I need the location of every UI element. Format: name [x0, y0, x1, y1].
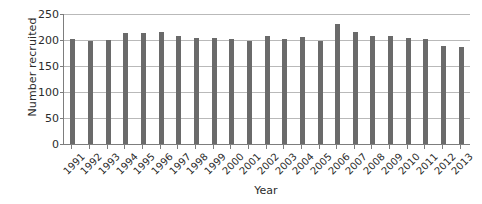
x-tick-mark-2011 — [424, 145, 425, 149]
bar — [194, 38, 199, 144]
bar-slot — [364, 14, 382, 144]
bar-slot — [205, 14, 223, 144]
x-label-slot: 2008 — [363, 150, 381, 180]
x-tick-mark-1994 — [124, 145, 125, 149]
x-label-slot: 2001 — [240, 150, 258, 180]
x-label-slot: 2004 — [293, 150, 311, 180]
x-label-slot: 2000 — [222, 150, 240, 180]
bar-slot — [347, 14, 365, 144]
bar — [247, 41, 252, 144]
bar-slot — [417, 14, 435, 144]
x-label-slot: 1996 — [151, 150, 169, 180]
plot-area — [63, 14, 470, 145]
x-label-slot: 1998 — [187, 150, 205, 180]
bar-slot — [135, 14, 153, 144]
x-tick-mark-1991 — [71, 145, 72, 149]
bar-slot — [276, 14, 294, 144]
x-label-slot: 1997 — [169, 150, 187, 180]
y-tick-label-100: 100 — [33, 87, 59, 98]
bar — [123, 33, 128, 144]
bar — [176, 36, 181, 144]
bar — [282, 39, 287, 144]
x-label-slot: 2006 — [328, 150, 346, 180]
bar-slot — [117, 14, 135, 144]
bar — [353, 32, 358, 144]
bar — [388, 36, 393, 144]
x-tick-mark-2012 — [442, 145, 443, 149]
bar-slot — [223, 14, 241, 144]
bar-chart: Number recruited 050100150200250 1991199… — [0, 0, 482, 204]
bar-slot — [99, 14, 117, 144]
x-tick-label-2013: 2013 — [449, 151, 475, 177]
bars-container — [64, 14, 470, 144]
x-tick-mark-2004 — [301, 145, 302, 149]
x-label-slot: 2009 — [381, 150, 399, 180]
bar — [141, 33, 146, 144]
x-label-slot: 1991 — [63, 150, 81, 180]
x-tick-mark-2003 — [283, 145, 284, 149]
y-tick-label-150: 150 — [33, 61, 59, 72]
bar-slot — [170, 14, 188, 144]
y-tick-label-200: 200 — [33, 35, 59, 46]
bar-slot — [399, 14, 417, 144]
bar — [406, 38, 411, 144]
bar — [70, 39, 75, 144]
bar — [318, 41, 323, 144]
x-tick-mark-2008 — [371, 145, 372, 149]
bar — [159, 32, 164, 144]
y-tick-label-250: 250 — [33, 9, 59, 20]
x-tick-mark-2005 — [319, 145, 320, 149]
bar — [459, 47, 464, 144]
y-tick-label-50: 50 — [33, 113, 59, 124]
x-tick-mark-1997 — [177, 145, 178, 149]
x-label-slot: 1995 — [134, 150, 152, 180]
bar-slot — [452, 14, 470, 144]
x-tick-mark-2006 — [336, 145, 337, 149]
bar — [106, 40, 111, 144]
y-axis-tick-labels: 050100150200250 — [30, 14, 59, 144]
x-label-slot: 2013 — [451, 150, 469, 180]
bar-slot — [152, 14, 170, 144]
x-label-slot: 1999 — [204, 150, 222, 180]
x-tick-mark-2001 — [248, 145, 249, 149]
x-axis-tick-labels: 1991199219931994199519961997199819992000… — [63, 150, 469, 180]
bar — [229, 39, 234, 144]
bar — [441, 46, 446, 144]
bar — [300, 37, 305, 144]
bar — [88, 41, 93, 144]
x-tick-mark-2002 — [266, 145, 267, 149]
bar-slot — [82, 14, 100, 144]
x-label-slot: 1993 — [98, 150, 116, 180]
x-tick-mark-2010 — [407, 145, 408, 149]
bar — [212, 38, 217, 144]
bar-slot — [382, 14, 400, 144]
x-tick-mark-1992 — [89, 145, 90, 149]
x-label-slot: 2005 — [310, 150, 328, 180]
bar-slot — [435, 14, 453, 144]
x-label-slot: 1992 — [81, 150, 99, 180]
x-label-slot: 1994 — [116, 150, 134, 180]
bar-slot — [294, 14, 312, 144]
x-tick-mark-2013 — [460, 145, 461, 149]
bar-slot — [188, 14, 206, 144]
x-label-slot: 2003 — [275, 150, 293, 180]
y-tick-label-0: 0 — [33, 139, 59, 150]
x-tick-mark-1996 — [160, 145, 161, 149]
x-tick-mark-2009 — [389, 145, 390, 149]
bar-slot — [329, 14, 347, 144]
x-tick-mark-2007 — [354, 145, 355, 149]
bar-slot — [311, 14, 329, 144]
bar-slot — [241, 14, 259, 144]
bar — [335, 24, 340, 144]
bar-slot — [258, 14, 276, 144]
bar — [370, 36, 375, 144]
x-tick-mark-1993 — [107, 145, 108, 149]
x-label-slot: 2010 — [398, 150, 416, 180]
x-label-slot: 2007 — [346, 150, 364, 180]
x-tick-mark-1995 — [142, 145, 143, 149]
x-tick-mark-2000 — [230, 145, 231, 149]
bar — [423, 39, 428, 144]
bar — [265, 36, 270, 144]
x-label-slot: 2011 — [416, 150, 434, 180]
bar-slot — [64, 14, 82, 144]
